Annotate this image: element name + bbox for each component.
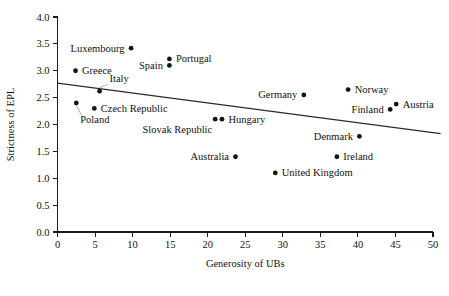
y-tick-label: 0.0 [36, 227, 49, 238]
point-label-united-kingdom: United Kingdom [282, 167, 353, 178]
x-tick-label: 5 [92, 239, 97, 250]
y-tick-label: 1.0 [36, 173, 49, 184]
y-tick-label: 3.0 [36, 65, 49, 76]
data-point[interactable] [388, 107, 393, 112]
point-label-poland: Poland [80, 114, 110, 125]
point-label-austria: Austria [403, 99, 434, 110]
y-tick-label: 2.5 [36, 92, 49, 103]
x-tick-label: 45 [390, 239, 401, 250]
x-tick-label: 50 [428, 239, 439, 250]
data-point[interactable] [233, 154, 238, 159]
point-label-hungary: Hungary [228, 114, 265, 125]
x-tick-label: 10 [127, 239, 138, 250]
point-label-germany: Germany [258, 89, 298, 100]
point-label-portugal: Portugal [176, 53, 212, 64]
y-tick-label: 1.5 [36, 146, 49, 157]
scatter-chart: 0.00.51.01.52.02.53.03.54.00510152025303… [0, 0, 449, 296]
x-axis-title: Generosity of UBs [206, 258, 285, 269]
x-tick-label: 40 [353, 239, 364, 250]
point-label-australia: Australia [190, 151, 229, 162]
x-tick-label: 35 [315, 239, 326, 250]
data-point[interactable] [129, 46, 134, 51]
y-tick-label: 2.0 [36, 119, 49, 130]
point-label-spain: Spain [139, 60, 164, 71]
point-label-slovak-republic: Slovak Republic [143, 124, 213, 135]
point-label-czech-republic: Czech Republic [101, 103, 168, 114]
x-tick-label: 25 [240, 239, 251, 250]
x-tick-label: 20 [202, 239, 213, 250]
point-label-luxembourg: Luxembourg [71, 43, 126, 54]
point-label-greece: Greece [82, 65, 112, 76]
data-point[interactable] [273, 170, 278, 175]
y-tick-label: 0.5 [36, 200, 49, 211]
point-label-ireland: Ireland [343, 151, 373, 162]
data-point[interactable] [167, 57, 172, 62]
point-label-denmark: Denmark [314, 131, 354, 142]
plot-area: 0.00.51.01.52.02.53.03.54.00510152025303… [0, 0, 449, 296]
data-point[interactable] [346, 87, 351, 92]
data-point[interactable] [394, 102, 399, 107]
data-point[interactable] [97, 89, 102, 94]
data-point[interactable] [301, 93, 306, 98]
x-tick-label: 0 [55, 239, 60, 250]
data-point[interactable] [92, 106, 97, 111]
data-point[interactable] [334, 154, 339, 159]
data-point[interactable] [213, 117, 218, 122]
data-point[interactable] [167, 63, 172, 68]
x-tick-label: 30 [278, 239, 289, 250]
data-point[interactable] [74, 101, 79, 106]
y-tick-label: 4.0 [36, 12, 49, 23]
point-labels-group: GreecePolandCzech RepublicItalyLuxembour… [71, 43, 434, 179]
point-label-finland: Finland [352, 104, 385, 115]
point-label-italy: Italy [110, 73, 130, 84]
y-axis-title: Strictness of EPL [5, 88, 16, 162]
data-point[interactable] [73, 68, 78, 73]
label-leader-line [99, 84, 108, 88]
x-tick-label: 15 [165, 239, 176, 250]
data-point[interactable] [357, 134, 362, 139]
point-label-norway: Norway [355, 84, 390, 95]
data-point[interactable] [220, 117, 225, 122]
y-tick-label: 3.5 [36, 38, 49, 49]
